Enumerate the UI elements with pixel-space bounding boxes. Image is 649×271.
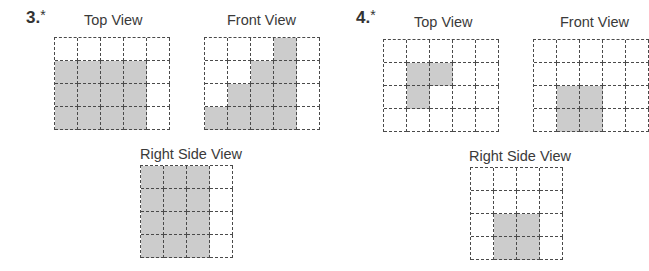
grid-cell-empty [476,40,499,63]
grid-cell-filled [430,63,453,86]
grid-cell-filled [580,86,603,109]
grid-cell-empty [205,84,228,107]
grid-cell-empty [384,63,407,86]
grid-cell-empty [297,61,320,84]
grid-cell-filled [55,107,78,130]
grid-cell-empty [297,107,320,130]
grid-cell-empty [453,86,476,109]
grid-cell-empty [603,40,626,63]
grid-cell-empty [603,109,626,132]
grid-cell-empty [603,63,626,86]
grid-cell-empty [540,237,563,260]
p3-front-view-title: Front View [227,12,296,28]
grid-cell-empty [297,84,320,107]
grid-cell-empty [476,86,499,109]
grid-cell-empty [494,191,517,214]
grid-cell-filled [55,61,78,84]
grid-cell-empty [430,86,453,109]
grid-cell-filled [124,84,147,107]
grid-cell-filled [164,212,187,235]
grid-cell-empty [407,40,430,63]
grid-cell-empty [384,109,407,132]
grid-cell-empty [540,168,563,191]
grid-cell-empty [147,107,170,130]
grid-cell-empty [626,63,649,86]
grid-cell-empty [101,38,124,61]
grid-cell-empty [557,40,580,63]
p4-front-view-grid [533,39,649,132]
grid-cell-empty [210,235,233,258]
grid-cell-empty [476,63,499,86]
grid-cell-empty [534,86,557,109]
grid-cell-empty [534,63,557,86]
grid-cell-filled [187,189,210,212]
grid-cell-empty [603,86,626,109]
grid-cell-filled [187,212,210,235]
grid-cell-empty [471,237,494,260]
grid-cell-empty [147,84,170,107]
p3-right-side-view-grid [140,165,233,258]
grid-cell-empty [626,40,649,63]
grid-cell-empty [557,63,580,86]
p3-top-view-title: Top View [84,12,143,28]
grid-cell-filled [141,212,164,235]
grid-cell-filled [251,107,274,130]
grid-cell-filled [517,237,540,260]
grid-cell-filled [274,61,297,84]
grid-cell-empty [580,63,603,86]
grid-cell-filled [101,107,124,130]
p4-right-side-view-grid [470,167,563,260]
grid-cell-filled [141,166,164,189]
grid-cell-filled [557,109,580,132]
grid-cell-filled [164,189,187,212]
grid-cell-filled [141,235,164,258]
grid-cell-filled [580,109,603,132]
p4-top-view-title: Top View [414,14,473,30]
grid-cell-filled [494,214,517,237]
grid-cell-empty [297,38,320,61]
grid-cell-empty [471,168,494,191]
grid-cell-empty [626,109,649,132]
grid-cell-empty [228,38,251,61]
grid-cell-filled [55,84,78,107]
p3-top-view-grid [54,37,170,130]
grid-cell-filled [274,38,297,61]
grid-cell-empty [147,61,170,84]
grid-cell-filled [78,107,101,130]
grid-cell-empty [228,61,251,84]
grid-cell-empty [453,63,476,86]
asterisk-marker: * [40,7,45,23]
p4-right-side-view-title: Right Side View [469,148,571,164]
grid-cell-filled [78,84,101,107]
grid-cell-filled [274,107,297,130]
grid-cell-empty [471,214,494,237]
grid-cell-filled [274,84,297,107]
grid-cell-empty [205,38,228,61]
grid-cell-empty [626,86,649,109]
grid-cell-filled [228,107,251,130]
grid-cell-filled [251,61,274,84]
grid-cell-empty [124,38,147,61]
grid-cell-empty [540,214,563,237]
grid-cell-empty [407,109,430,132]
problem-number: 4. [356,8,370,27]
p3-right-side-view-title: Right Side View [140,146,242,162]
grid-cell-filled [101,84,124,107]
problem-3-label: 3.* [26,8,46,28]
problem-number: 3. [26,8,40,27]
grid-cell-empty [471,191,494,214]
grid-cell-filled [164,166,187,189]
grid-cell-empty [476,109,499,132]
grid-cell-empty [453,40,476,63]
grid-cell-empty [580,40,603,63]
grid-cell-filled [124,61,147,84]
grid-cell-empty [517,168,540,191]
grid-cell-empty [384,86,407,109]
grid-cell-empty [517,191,540,214]
problem-4-label: 4.* [356,8,376,28]
grid-cell-empty [430,109,453,132]
grid-cell-empty [384,40,407,63]
p4-front-view-title: Front View [560,14,629,30]
grid-cell-empty [205,61,228,84]
grid-cell-filled [78,61,101,84]
